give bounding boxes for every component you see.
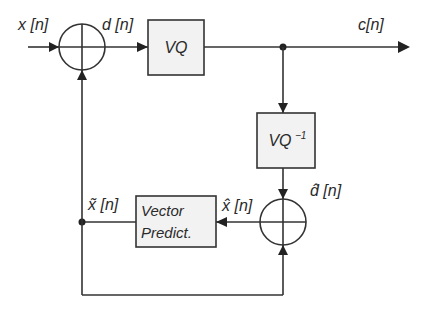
label-x-n: x [n]	[17, 16, 49, 33]
sum-decoder	[260, 199, 306, 245]
predictor-label-line2: Predict.	[141, 224, 192, 241]
arrow-icon	[398, 41, 410, 53]
arrow-icon	[77, 70, 87, 80]
label-d-hat-n: d̂ [n]	[310, 182, 342, 199]
label-x-hat-n: x̂ [n]	[221, 197, 253, 214]
arrow-icon	[49, 42, 59, 52]
vq-label: VQ	[164, 39, 187, 56]
arrow-icon	[216, 217, 227, 227]
predictor-label-line1: Vector	[141, 202, 185, 219]
label-x-tilde-n: x̃ [n]	[87, 196, 119, 213]
arrow-icon	[278, 103, 288, 113]
dpcm-vq-diagram: x [n] d [n] VQ c[n] VQ −1 d̂ [n] x̂ [n] …	[0, 0, 422, 312]
sum-encoder	[59, 24, 105, 70]
arrow-icon	[278, 245, 288, 255]
label-c-n: c[n]	[358, 16, 384, 33]
arrow-icon	[137, 42, 148, 52]
vq-inverse-superscript: −1	[295, 130, 306, 141]
arrow-icon	[278, 189, 288, 199]
label-d-n: d [n]	[102, 16, 134, 33]
vq-inverse-label: VQ	[268, 132, 291, 149]
